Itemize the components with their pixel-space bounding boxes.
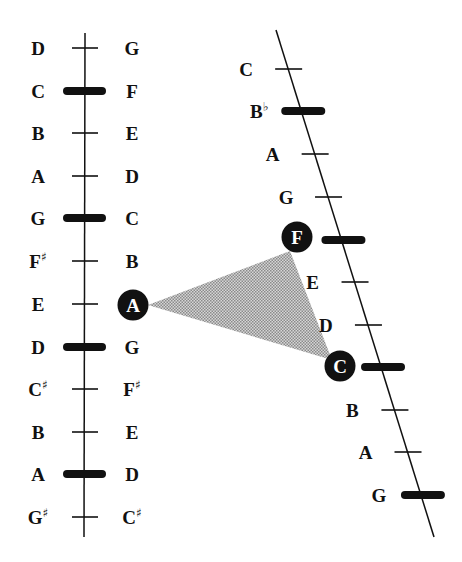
right-note-label: G xyxy=(125,38,140,59)
left-note-label: G♯ xyxy=(28,506,49,528)
left-scale: DGCFBEADGCF♯BEDGC♯F♯BEADG♯C♯ xyxy=(28,33,142,537)
left-note-label: D xyxy=(31,337,45,358)
diagonal-note-label: C xyxy=(239,59,253,80)
right-note-label: C xyxy=(125,208,139,229)
diagonal-note-label-accidental: ♭ xyxy=(263,100,269,114)
right-note-label: C♯ xyxy=(122,506,142,528)
node-a: A xyxy=(118,290,149,321)
shaded-triangle xyxy=(148,251,332,360)
left-row: BE xyxy=(32,422,139,443)
left-row: E xyxy=(32,294,98,315)
diagonal-note-label: A xyxy=(359,442,373,463)
left-row: AD xyxy=(31,464,139,485)
left-note-label: A xyxy=(31,166,45,187)
right-note-label: E xyxy=(126,422,139,443)
right-note-label: D xyxy=(125,464,139,485)
left-note-label: A xyxy=(31,464,45,485)
left-note-label: C♯ xyxy=(28,378,48,400)
diagonal-row: G xyxy=(279,187,342,208)
left-row: DG xyxy=(31,337,139,358)
diagonal-row: B xyxy=(346,400,408,421)
right-note-label: E xyxy=(126,123,139,144)
left-note-label-accidental: ♯ xyxy=(41,250,47,264)
diagonal-row: B♭ xyxy=(250,100,321,122)
node-a-label: A xyxy=(126,295,140,316)
right-note-label-accidental: ♯ xyxy=(135,378,141,392)
diagonal-note-label: A xyxy=(266,144,280,165)
left-note-label: D xyxy=(31,38,45,59)
right-note-label-accidental: ♯ xyxy=(136,506,142,520)
diagonal-note-label: E xyxy=(306,272,319,293)
left-note-label: E xyxy=(32,294,45,315)
right-note-label: G xyxy=(125,337,140,358)
right-note-label: F xyxy=(126,81,138,102)
diagonal-note-label: B xyxy=(346,400,359,421)
diagonal-note-label: D xyxy=(319,315,333,336)
right-note-label: D xyxy=(125,166,139,187)
diagonal-row: C xyxy=(239,59,302,80)
tuning-diagram: DGCFBEADGCF♯BEDGC♯F♯BEADG♯C♯ CB♭AGEDBAG … xyxy=(0,0,462,562)
left-note-label: G xyxy=(31,208,46,229)
diagonal-row: A xyxy=(266,144,329,165)
left-note-label: B xyxy=(32,123,45,144)
diagonal-row: A xyxy=(359,442,422,463)
left-note-label-accidental: ♯ xyxy=(42,378,48,392)
diagonal-note-label: G xyxy=(279,187,294,208)
node-c-label: C xyxy=(333,356,347,377)
diagonal-note-label: B♭ xyxy=(250,100,268,122)
left-scale-line xyxy=(84,33,85,537)
node-c: C xyxy=(325,351,356,382)
diagonal-row: G xyxy=(372,485,441,506)
right-note-label: F♯ xyxy=(123,378,140,400)
diagonal-row: E xyxy=(306,272,368,293)
diagonal-note-label: G xyxy=(372,485,387,506)
left-note-label: B xyxy=(32,422,45,443)
right-note-label: B xyxy=(126,251,139,272)
diagonal-row: D xyxy=(319,315,382,336)
node-f: F xyxy=(282,222,313,253)
left-note-label-accidental: ♯ xyxy=(42,506,48,520)
node-f-label: F xyxy=(291,227,303,248)
left-note-label: C xyxy=(31,81,45,102)
left-note-label: F♯ xyxy=(29,250,46,272)
